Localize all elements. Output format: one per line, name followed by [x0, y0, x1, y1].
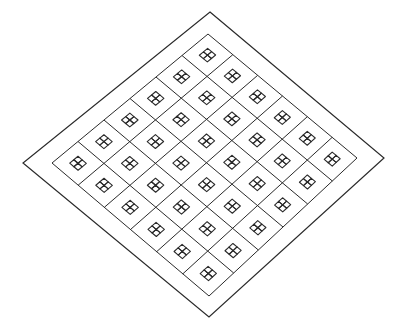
icon-pane: [181, 116, 189, 123]
icon-pane: [173, 73, 181, 80]
icon-pane: [177, 113, 185, 120]
icon-pane: [253, 184, 261, 191]
icon-pane: [203, 55, 211, 62]
icon-pane: [104, 182, 112, 189]
icon-pane: [253, 90, 261, 97]
icon-pane: [177, 207, 185, 214]
icon-pane: [253, 177, 261, 184]
four-pane-window-icon: [274, 111, 290, 125]
four-pane-window-icon: [173, 113, 189, 127]
four-pane-window-icon: [199, 91, 215, 105]
icon-pane: [148, 226, 156, 233]
icon-pane: [177, 200, 185, 207]
four-pane-window-icon: [224, 199, 240, 213]
icon-pane: [198, 181, 206, 188]
icon-pane: [225, 247, 233, 254]
icon-pane: [202, 141, 210, 148]
four-pane-window-icon: [147, 178, 163, 192]
icon-pane: [328, 152, 336, 159]
grid-line: [131, 96, 283, 230]
icon-pane: [152, 98, 160, 105]
grid-line: [104, 75, 257, 207]
icon-pane: [78, 160, 86, 167]
icon-pane: [100, 185, 108, 192]
icon-pane: [104, 138, 112, 145]
four-pane-window-icon: [198, 178, 214, 192]
icon-pane: [232, 115, 240, 122]
icon-pane: [198, 138, 206, 145]
icon-pane: [249, 137, 257, 144]
icon-pane: [177, 120, 185, 127]
icon-pane: [152, 185, 160, 192]
four-pane-window-icon: [173, 200, 189, 214]
icon-pane: [200, 270, 208, 277]
icon-pane: [282, 114, 290, 121]
icon-pane: [207, 181, 215, 188]
icon-pane: [96, 138, 104, 145]
icon-pane: [249, 93, 257, 100]
icon-pane: [228, 162, 236, 169]
icon-pane: [275, 201, 283, 208]
icon-pane: [96, 182, 104, 189]
icon-pane: [299, 135, 307, 142]
icon-pane: [324, 156, 332, 163]
icon-pane: [206, 137, 214, 144]
icon-pane: [229, 251, 237, 258]
icon-pane: [250, 224, 258, 231]
icon-pane: [100, 178, 108, 185]
icon-pane: [253, 133, 261, 140]
icon-pane: [274, 114, 282, 121]
icon-pane: [303, 182, 311, 189]
icon-pane: [126, 120, 134, 127]
icon-pane: [224, 203, 232, 210]
inner-grid: [52, 34, 357, 296]
icon-pane: [122, 117, 130, 124]
icon-pane: [233, 247, 241, 254]
icon-pane: [199, 225, 207, 232]
icon-pane: [130, 160, 138, 167]
icon-pane: [228, 206, 236, 213]
icon-pane: [278, 118, 286, 125]
icon-pane: [283, 201, 291, 208]
icon-pane: [203, 48, 211, 55]
four-pane-window-icon: [122, 156, 138, 170]
icon-pane: [74, 163, 82, 170]
icon-pane: [254, 221, 262, 228]
icon-pane: [122, 160, 130, 167]
icon-pane: [307, 135, 315, 142]
four-pane-window-icon: [70, 156, 87, 170]
icon-pane: [257, 93, 265, 100]
four-pane-window-icon: [224, 69, 240, 83]
icon-pane: [152, 229, 160, 236]
icon-pane: [232, 72, 240, 79]
icon-pane: [178, 70, 186, 77]
icon-pane: [156, 182, 164, 189]
four-pane-window-icon: [198, 134, 214, 148]
icon-pane: [249, 180, 257, 187]
icon-pane: [279, 205, 287, 212]
four-pane-window-icon: [147, 92, 163, 106]
four-pane-window-icon: [174, 244, 190, 258]
icon-pane: [232, 203, 240, 210]
icon-pane: [278, 111, 286, 118]
icon-pane: [224, 73, 232, 80]
icon-pane: [151, 178, 159, 185]
icon-pane: [199, 52, 207, 59]
icon-pane: [126, 163, 134, 170]
icon-pane: [130, 117, 138, 124]
icon-pane: [303, 131, 311, 138]
icon-pane: [147, 95, 155, 102]
four-pane-window-icon: [147, 135, 163, 149]
icon-pane: [177, 163, 185, 170]
icon-pane: [228, 199, 236, 206]
icon-pane: [203, 178, 211, 185]
icon-pane: [207, 225, 215, 232]
icon-pane: [126, 113, 134, 120]
icon-pane: [228, 76, 236, 83]
four-pane-window-icon: [199, 48, 215, 62]
icon-pane: [147, 182, 155, 189]
four-pane-window-icon: [200, 266, 216, 280]
icon-pane: [151, 142, 159, 149]
four-pane-window-icon: [96, 135, 113, 149]
four-pane-window-icon: [224, 112, 240, 126]
